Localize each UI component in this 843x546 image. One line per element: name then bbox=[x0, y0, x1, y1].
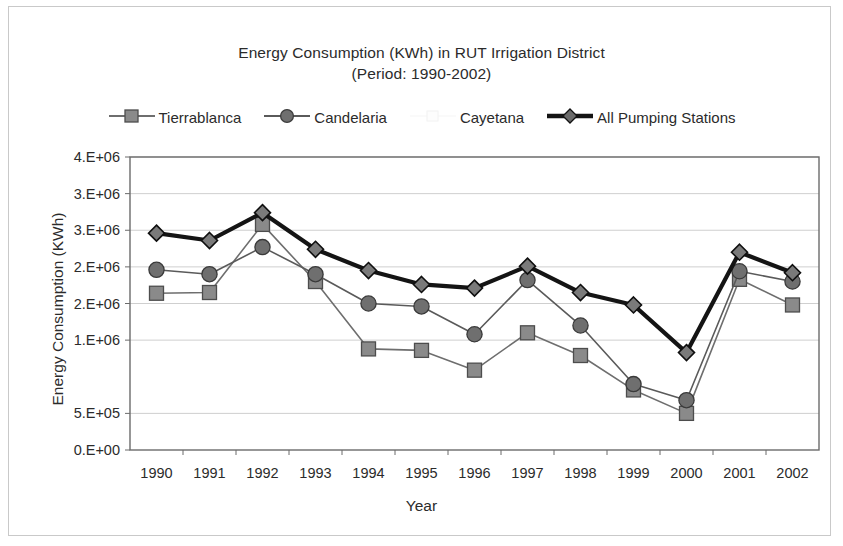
data-point-circle bbox=[679, 393, 694, 408]
data-point-square bbox=[680, 406, 694, 420]
x-axis-tick-label: 2001 bbox=[723, 465, 755, 481]
data-point-square bbox=[786, 298, 800, 312]
data-point-circle bbox=[467, 327, 482, 342]
y-axis-tick-label: 5.E+05 bbox=[74, 405, 120, 421]
x-axis-tick-label: 1991 bbox=[193, 465, 225, 481]
data-point-square bbox=[574, 349, 588, 363]
x-axis-tick-label: 1996 bbox=[458, 465, 490, 481]
data-point-diamond bbox=[467, 280, 483, 296]
data-point-diamond bbox=[573, 285, 589, 301]
x-axis-tick-label: 2000 bbox=[670, 465, 702, 481]
x-axis-tick-label: 1994 bbox=[352, 465, 384, 481]
x-axis-tick-label: 1998 bbox=[564, 465, 596, 481]
data-point-diamond bbox=[520, 258, 536, 274]
y-axis-tick-label: 3.E+06 bbox=[74, 222, 120, 238]
x-axis-tick-label: 1997 bbox=[511, 465, 543, 481]
data-point-circle bbox=[308, 267, 323, 282]
data-point-diamond bbox=[202, 233, 218, 249]
data-point-circle bbox=[626, 376, 641, 391]
plot-canvas: 4.E+063.E+063.E+062.E+062.E+061.E+065.E+… bbox=[0, 0, 843, 546]
x-axis-tick-label: 1990 bbox=[140, 465, 172, 481]
data-point-diamond bbox=[732, 244, 748, 260]
y-axis-tick-label: 0.E+00 bbox=[74, 442, 120, 458]
data-point-circle bbox=[573, 318, 588, 333]
y-axis-tick-label: 3.E+06 bbox=[74, 186, 120, 202]
data-point-diamond bbox=[149, 225, 165, 241]
data-point-diamond bbox=[414, 276, 430, 292]
x-axis-tick-label: 1995 bbox=[405, 465, 437, 481]
data-point-circle bbox=[255, 239, 270, 254]
data-point-square bbox=[362, 342, 376, 356]
x-axis-tick-label: 2002 bbox=[776, 465, 808, 481]
x-axis-tick-label: 1993 bbox=[299, 465, 331, 481]
data-point-square bbox=[415, 343, 429, 357]
chart-figure: Energy Consumption (KWh) in RUT Irrigati… bbox=[0, 0, 843, 546]
data-point-square bbox=[203, 286, 217, 300]
data-point-square bbox=[150, 286, 164, 300]
data-point-circle bbox=[414, 299, 429, 314]
y-axis-tick-label: 4.E+06 bbox=[74, 149, 120, 165]
x-axis-tick-label: 1999 bbox=[617, 465, 649, 481]
data-point-square bbox=[468, 363, 482, 377]
y-axis-tick-label: 1.E+06 bbox=[74, 332, 120, 348]
x-axis-tick-label: 1992 bbox=[246, 465, 278, 481]
data-point-circle bbox=[361, 296, 376, 311]
y-axis-tick-label: 2.E+06 bbox=[74, 259, 120, 275]
data-point-circle bbox=[149, 262, 164, 277]
data-point-diamond bbox=[361, 263, 377, 279]
y-axis-tick-label: 2.E+06 bbox=[74, 296, 120, 312]
data-point-square bbox=[521, 326, 535, 340]
data-point-circle bbox=[202, 267, 217, 282]
